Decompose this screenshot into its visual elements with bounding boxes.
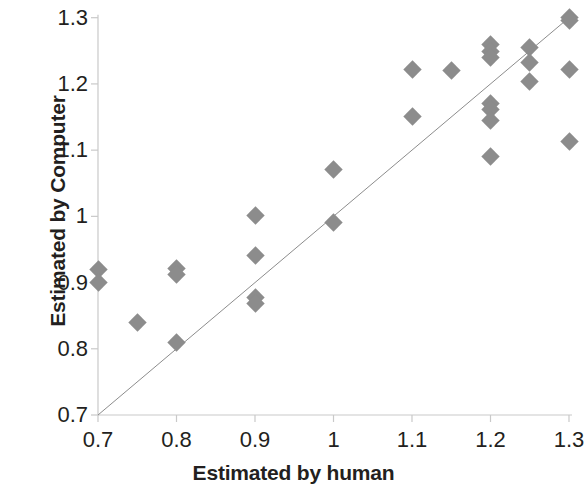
x-axis-tick-label: 0.7 [63, 429, 133, 451]
x-axis-title: Estimated by human [0, 461, 587, 485]
x-axis-tick-label: 1 [299, 429, 369, 451]
x-axis-tick-label: 1.2 [456, 429, 526, 451]
x-axis-tick-label: 1.3 [534, 429, 587, 451]
y-axis-title: Estimated by Computer [46, 61, 70, 361]
x-axis-tick-label: 1.1 [377, 429, 447, 451]
x-axis-tick-label: 0.8 [142, 429, 212, 451]
scatter-chart: 0.70.80.911.11.21.3 0.70.80.911.11.21.3 … [0, 0, 587, 492]
x-axis-tick-labels: 0.70.80.911.11.21.3 [0, 0, 587, 492]
x-axis-tick-label: 0.9 [220, 429, 290, 451]
